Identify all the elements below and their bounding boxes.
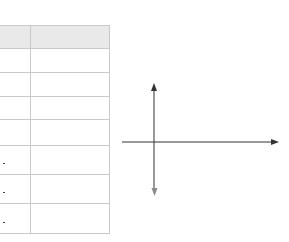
axes <box>122 83 279 191</box>
y-axis-arrow-icon <box>151 83 157 91</box>
x-axis-arrow-icon <box>271 139 279 145</box>
log-graph <box>0 0 289 242</box>
curve-down-arrow-icon <box>152 188 158 196</box>
